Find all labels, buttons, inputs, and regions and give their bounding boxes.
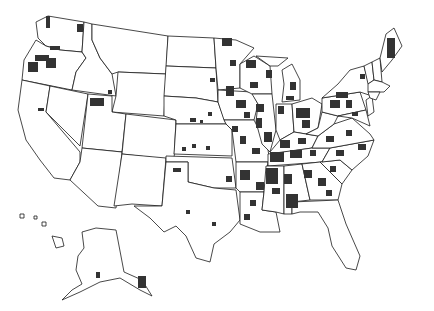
county-cluster-tn-1 (270, 152, 284, 162)
county-cluster-ks-2 (192, 144, 196, 148)
county-cluster-mo-1 (232, 126, 238, 132)
county-cluster-mi-3 (286, 96, 294, 100)
county-cluster-or-2 (28, 62, 38, 72)
county-cluster-id (108, 90, 112, 94)
county-cluster-ut (90, 98, 104, 106)
county-cluster-nc-2 (358, 144, 366, 150)
county-cluster-sc-1 (330, 166, 336, 172)
county-cluster-pa-1 (330, 100, 340, 108)
county-cluster-mn-3 (226, 86, 234, 96)
county-cluster-ok-2 (186, 210, 190, 214)
county-cluster-me (387, 38, 395, 58)
state-north-dakota (166, 36, 216, 68)
county-cluster-il-1 (256, 104, 264, 112)
county-cluster-mo-3 (252, 148, 260, 154)
county-cluster-ok-1 (173, 168, 181, 172)
county-cluster-tn-3 (310, 150, 316, 156)
county-cluster-mi-1 (266, 70, 272, 78)
county-cluster-ny-1 (360, 74, 365, 79)
county-cluster-ks-1 (182, 147, 186, 151)
county-cluster-pa-2 (346, 100, 352, 108)
county-cluster-mo-2 (240, 136, 246, 144)
state-florida (292, 200, 360, 270)
county-cluster-sd-2 (200, 120, 203, 123)
county-cluster-ak-south (96, 272, 100, 278)
county-cluster-il-2 (256, 118, 262, 128)
county-cluster-wa-east (77, 24, 83, 32)
county-cluster-sd-1 (190, 118, 196, 122)
county-cluster-la-1 (250, 200, 256, 206)
county-cluster-ne (208, 112, 212, 116)
county-cluster-tx-2 (226, 176, 232, 182)
county-cluster-al-1 (284, 174, 292, 184)
county-cluster-wa-coast (46, 16, 50, 28)
county-cluster-ia-1 (236, 100, 246, 108)
state-colorado (122, 114, 176, 160)
county-cluster-ia-2 (244, 112, 250, 118)
county-cluster-ga-1 (304, 170, 312, 178)
county-cluster-mn-2 (230, 60, 236, 66)
county-cluster-va-1 (326, 136, 334, 142)
county-cluster-oh-2 (302, 120, 310, 128)
county-cluster-ak-southeast (138, 276, 146, 288)
county-cluster-ks-3 (206, 146, 210, 150)
county-cluster-la-2 (244, 214, 250, 220)
state-kansas (174, 124, 232, 156)
states-layer (18, 16, 402, 300)
state-alaska (62, 228, 152, 300)
county-cluster-wa-south (50, 46, 60, 50)
state-massachusetts (368, 80, 390, 92)
county-cluster-ny-2 (336, 92, 348, 98)
county-cluster-mn-1 (222, 38, 232, 46)
county-cluster-il-3 (264, 132, 272, 142)
state-hawaii (20, 214, 64, 248)
county-cluster-tx-1 (212, 222, 216, 226)
county-cluster-ga-2 (318, 178, 326, 186)
county-cluster-ga-3 (326, 190, 332, 196)
county-cluster-wi-2 (250, 82, 258, 88)
county-cluster-tn-2 (290, 150, 302, 158)
county-cluster-md (352, 112, 358, 116)
county-cluster-nc-1 (336, 150, 344, 156)
us-county-map (0, 0, 434, 311)
county-cluster-ar-1 (240, 170, 250, 180)
state-wyoming (112, 72, 166, 116)
county-cluster-ms-2 (272, 188, 280, 194)
county-cluster-in-1 (278, 106, 284, 114)
county-cluster-mi-2 (290, 82, 296, 90)
state-new-mexico (114, 154, 166, 206)
county-cluster-va-2 (346, 130, 352, 136)
county-cluster-wi-1 (246, 60, 256, 68)
county-cluster-ms-1 (266, 168, 278, 184)
county-cluster-ca (38, 108, 44, 111)
county-cluster-or-3 (46, 58, 56, 68)
county-cluster-al-2 (286, 194, 298, 208)
county-cluster-ky-2 (298, 138, 306, 144)
county-cluster-ar-2 (256, 182, 264, 190)
county-cluster-nd (210, 78, 215, 82)
county-cluster-ky-1 (280, 140, 290, 148)
county-cluster-oh-1 (296, 108, 310, 118)
